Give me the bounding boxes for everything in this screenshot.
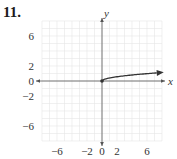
svg-text:6: 6 (144, 145, 150, 157)
axes (36, 18, 165, 146)
svg-text:0: 0 (99, 145, 105, 157)
svg-text:0: 0 (29, 75, 35, 87)
svg-text:2: 2 (114, 145, 120, 157)
svg-text:−6: −6 (22, 120, 34, 132)
curve-start-point (100, 79, 104, 83)
curve-arrowhead-icon (157, 70, 164, 76)
svg-text:−2: −2 (81, 145, 93, 157)
svg-text:2: 2 (29, 60, 35, 72)
curve-line (102, 73, 157, 81)
svg-text:−2: −2 (22, 90, 34, 102)
svg-text:−6: −6 (51, 145, 63, 157)
y-axis-label: y (103, 7, 109, 19)
x-axis-label: x (167, 75, 173, 87)
coordinate-plane: −6−2026620−2−6 x y (0, 0, 177, 159)
tick-labels: −6−2026620−2−6 (22, 30, 150, 157)
svg-text:6: 6 (29, 30, 35, 42)
